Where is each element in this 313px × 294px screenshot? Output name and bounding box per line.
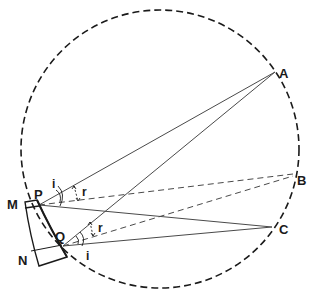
- label-angle-i-q: i: [86, 249, 89, 263]
- diagram-canvas: A B C P Q M N i r r i: [0, 0, 313, 294]
- angle-markers-q: [76, 222, 95, 246]
- ray-p-a: [39, 72, 275, 205]
- ray-p-c: [39, 205, 272, 227]
- label-p: P: [34, 187, 43, 202]
- label-a: A: [279, 66, 289, 81]
- focusing-circle: [21, 10, 299, 288]
- label-q: Q: [55, 229, 65, 244]
- label-b: B: [297, 173, 306, 188]
- ray-q-a: [63, 72, 275, 246]
- label-n: N: [18, 253, 27, 268]
- label-m: M: [7, 197, 18, 212]
- label-c: C: [279, 222, 289, 237]
- label-angle-r-p: r: [82, 185, 87, 199]
- label-angle-r-q: r: [98, 221, 103, 235]
- label-angle-i-p: i: [52, 177, 55, 191]
